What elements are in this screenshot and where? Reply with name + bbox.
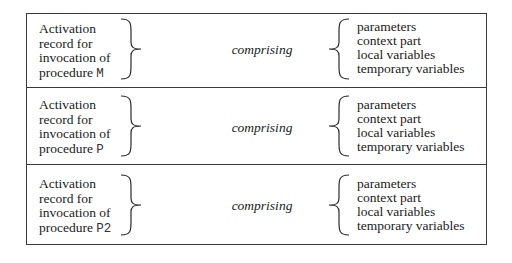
right-curly-brace-icon — [119, 18, 145, 80]
right-curly-brace-icon — [119, 174, 145, 236]
activation-record-row-p: Activation record for invocation of proc… — [27, 87, 486, 164]
component-item: local variables — [357, 48, 465, 62]
component-item: context part — [357, 191, 465, 205]
activation-record-table: Activation record for invocation of proc… — [26, 13, 487, 245]
label-text: procedure — [39, 141, 96, 156]
component-item: parameters — [357, 177, 465, 191]
activation-record-row-p2: Activation record for invocation of proc… — [27, 164, 486, 244]
component-item: temporary variables — [357, 219, 465, 233]
left-curly-brace-icon — [325, 18, 351, 80]
component-list: parameters context part local variables … — [357, 20, 465, 76]
activation-record-row-m: Activation record for invocation of proc… — [27, 14, 486, 87]
left-curly-brace-icon — [325, 174, 351, 236]
comprising-text: comprising — [202, 42, 322, 58]
component-item: local variables — [357, 205, 465, 219]
component-item: context part — [357, 34, 465, 48]
procedure-name: M — [96, 67, 104, 81]
right-curly-brace-icon — [119, 95, 145, 157]
left-curly-brace-icon — [325, 95, 351, 157]
component-item: parameters — [357, 98, 465, 112]
comprising-text: comprising — [202, 198, 322, 214]
procedure-name: P2 — [96, 222, 111, 236]
component-item: local variables — [357, 126, 465, 140]
procedure-name: P — [96, 143, 104, 157]
label-text: procedure — [39, 65, 96, 80]
component-item: context part — [357, 112, 465, 126]
component-list: parameters context part local variables … — [357, 177, 465, 233]
component-item: parameters — [357, 20, 465, 34]
component-item: temporary variables — [357, 140, 465, 154]
comprising-text: comprising — [202, 120, 322, 136]
component-list: parameters context part local variables … — [357, 98, 465, 154]
component-item: temporary variables — [357, 62, 465, 76]
label-text: procedure — [39, 220, 96, 235]
